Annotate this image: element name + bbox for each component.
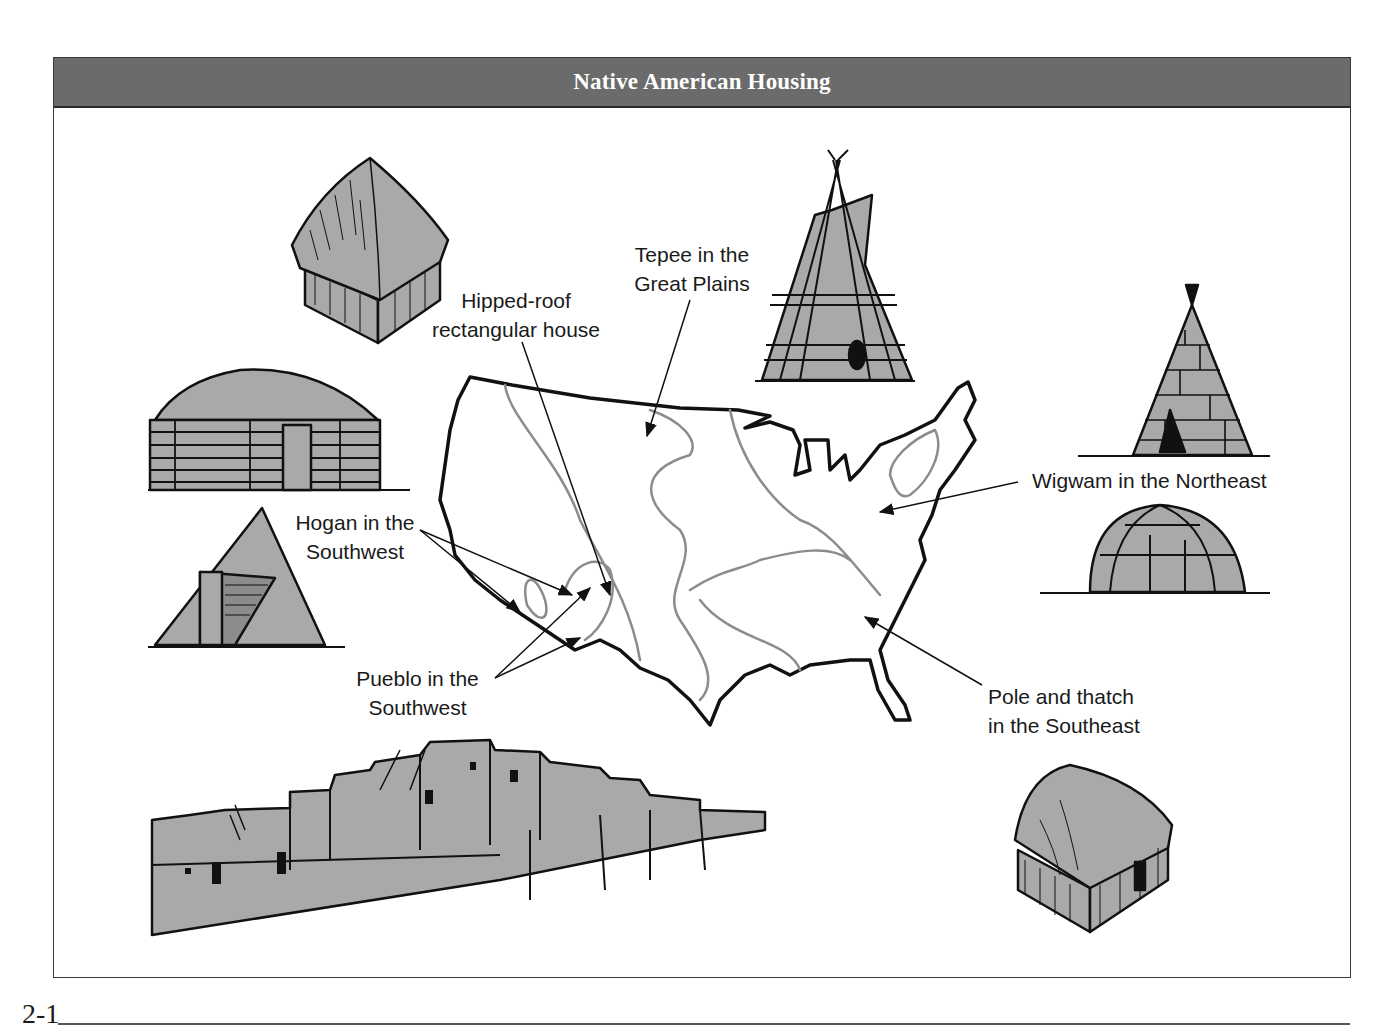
label-pueblo: Pueblo in the Southwest xyxy=(345,664,490,722)
label-hogan: Hogan in the Southwest xyxy=(285,508,425,566)
pueblo-arrow-2 xyxy=(495,638,580,678)
label-line: Southwest xyxy=(285,537,425,566)
illustration-canvas xyxy=(0,0,1390,1030)
page-number: 2-1 xyxy=(22,998,59,1030)
tepee-illustration xyxy=(755,150,915,381)
label-line: Pueblo in the xyxy=(345,664,490,693)
pole-thatch-arrow xyxy=(865,617,982,685)
label-line: Tepee in the xyxy=(622,240,762,269)
label-line: Southwest xyxy=(345,693,490,722)
tepee-arrow xyxy=(647,300,690,436)
leader-lines xyxy=(420,300,1018,685)
hogan-arrow-1 xyxy=(420,530,572,595)
label-line: rectangular house xyxy=(418,315,614,344)
hogan-arrow-2 xyxy=(420,530,520,612)
us-map xyxy=(440,377,975,725)
label-line: Hipped-roof xyxy=(418,286,614,315)
label-line: Pole and thatch xyxy=(988,682,1140,711)
region-boundaries xyxy=(505,385,938,700)
label-line: Great Plains xyxy=(622,269,762,298)
label-tepee: Tepee in the Great Plains xyxy=(622,240,762,298)
hipped-roof-arrow xyxy=(522,342,610,595)
domed-wigwam-illustration xyxy=(1040,505,1270,593)
pueblo-arrow-1 xyxy=(495,588,590,678)
label-line: Wigwam in the Northeast xyxy=(1032,466,1267,495)
label-hipped-roof: Hipped-roof rectangular house xyxy=(418,286,614,344)
conical-wigwam-illustration xyxy=(1078,285,1270,456)
pueblo-illustration xyxy=(152,740,765,935)
pole-thatch-house-illustration xyxy=(1015,765,1172,932)
wigwam-arrow xyxy=(880,482,1018,512)
label-wigwam: Wigwam in the Northeast xyxy=(1032,466,1267,495)
answer-line xyxy=(58,1023,1350,1025)
log-hogan-illustration xyxy=(148,370,410,490)
label-line: Hogan in the xyxy=(285,508,425,537)
label-pole-thatch: Pole and thatch in the Southeast xyxy=(988,682,1140,740)
label-line: in the Southeast xyxy=(988,711,1140,740)
